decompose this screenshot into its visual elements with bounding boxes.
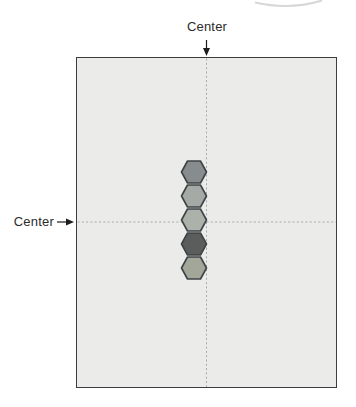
top-arrow-head xyxy=(203,48,210,56)
left-arrow-head xyxy=(66,219,74,226)
clipped-arc xyxy=(255,1,322,6)
left-center-label: Center xyxy=(12,214,54,230)
top-center-label: Center xyxy=(178,19,236,35)
board-rectangle xyxy=(76,57,337,388)
figure-canvas: Center Center xyxy=(0,0,356,407)
